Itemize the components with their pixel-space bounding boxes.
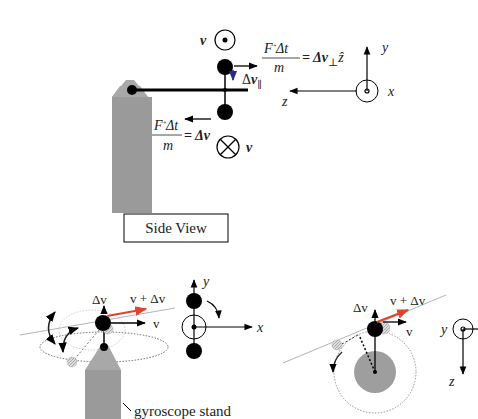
axes-top: y z [439,319,478,389]
svg-text:y: y [380,40,389,55]
gyroscope-stand-label: gyroscope stand [134,403,232,419]
resultant-label: v + Δv [130,291,166,306]
svg-text:= Δv: = Δv [184,128,211,143]
svg-text:y: y [201,274,210,289]
side-view: v F Δt → m = Δv⊥ẑ Δv∥ F Δt → m = Δv v [112,30,395,242]
mass-bottom [217,104,233,120]
svg-text:→: → [158,115,168,126]
equation-top: F Δt → m = Δv⊥ẑ [262,38,344,75]
delta-v-label: Δv [92,292,107,307]
gyroscope-stand-perspective [85,370,121,419]
svg-text:m: m [274,60,284,75]
svg-text:y: y [439,322,448,337]
svg-text:v + Δv: v + Δv [390,293,426,308]
mass-perspective [95,315,111,331]
svg-text:= Δv⊥ẑ: = Δv⊥ẑ [302,50,344,68]
svg-text:z: z [281,94,288,109]
svg-text:v: v [406,324,413,339]
equation-bottom: F Δt → m = Δv [152,115,211,153]
mass-top [217,59,233,75]
svg-text:z: z [448,374,455,389]
svg-text:m: m [163,138,173,153]
gyroscope-stand [112,97,152,213]
side-view-caption: Side View [145,220,207,236]
svg-text:Δv: Δv [353,300,368,315]
front-axes: y x [182,274,264,359]
resultant-arrow [107,309,146,316]
velocity-label-bottom: v [246,140,253,155]
svg-text:→: → [268,38,278,49]
svg-text:x: x [256,320,264,335]
gyroscope-diagram: v F Δt → m = Δv⊥ẑ Δv∥ F Δt → m = Δv v [0,0,478,419]
svg-text:x: x [387,84,395,99]
top-view: Δv v + Δv v y z [283,293,478,413]
velocity-label-top: v [200,33,207,48]
v-label: v [153,316,160,331]
delta-v-parallel-label: Δv∥ [242,72,262,90]
